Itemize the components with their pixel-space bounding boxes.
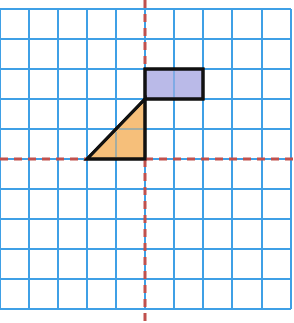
grid-diagram (0, 0, 294, 323)
dashed-axes (0, 0, 294, 323)
grid-canvas (0, 0, 294, 323)
